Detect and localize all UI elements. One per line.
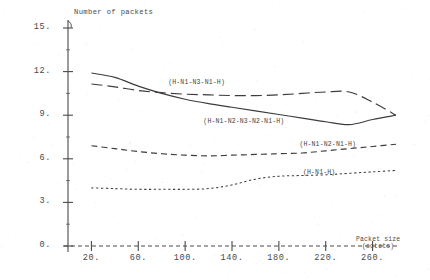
x-tick-label: 260. (353, 253, 393, 263)
x-axis-title-unit: (octets) (356, 243, 400, 250)
x-axis-title: Packet size (octets) (356, 236, 400, 251)
y-tick-label: 3. (11, 196, 51, 206)
x-tick-label: 180. (259, 253, 299, 263)
series-label-3: (H-N1-N2-N1-H) (299, 141, 356, 148)
series-line-2 (91, 84, 396, 115)
x-tick-label: 140. (212, 253, 252, 263)
y-axis-title: Number of packets (74, 8, 153, 16)
y-tick-label: 12. (11, 66, 51, 76)
chart-axes (63, 20, 400, 252)
series-label-1: (H-N1-N2-N3-N2-N1-H) (203, 118, 284, 125)
series-label-2: (H-N1-N3-N1-H) (168, 79, 225, 86)
series-label-4: (H-N1-H) (303, 169, 335, 176)
x-tick-label: 20. (71, 253, 111, 263)
y-tick-label: 0. (11, 240, 51, 250)
chart-screenshot: Number of packets Packet size (octets) 0… (0, 0, 430, 280)
series-line-4 (91, 170, 396, 189)
y-tick-label: 6. (11, 153, 51, 163)
x-axis-title-main: Packet size (356, 236, 400, 243)
packets-vs-packet-size-chart: Number of packets Packet size (octets) 0… (0, 0, 430, 280)
chart-series-lines (91, 73, 396, 189)
x-tick-label: 100. (165, 253, 205, 263)
x-tick-label: 220. (306, 253, 346, 263)
y-tick-label: 15. (11, 22, 51, 32)
y-tick-label: 9. (11, 109, 51, 119)
x-tick-label: 60. (118, 253, 158, 263)
